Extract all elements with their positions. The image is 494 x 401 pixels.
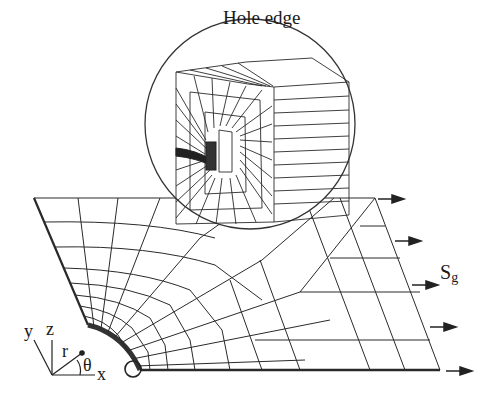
arrow-right-icon: [378, 195, 404, 203]
inset-title: Hole edge: [223, 8, 301, 27]
load-arrows: [378, 195, 472, 375]
arrow-right-icon: [412, 281, 438, 289]
mesh-diagram: [0, 0, 494, 401]
axis-theta-label: θ: [83, 356, 92, 374]
arrow-right-icon: [395, 237, 421, 245]
hole-edge: [88, 325, 140, 370]
arrow-right-icon: [430, 323, 456, 331]
load-label: Sg: [440, 262, 458, 285]
axis-z-label: z: [46, 320, 54, 338]
axis-x-label: x: [97, 365, 106, 383]
arrow-right-icon: [446, 367, 472, 375]
axis-y-label: y: [24, 322, 33, 340]
axis-r-label: r: [62, 342, 68, 360]
